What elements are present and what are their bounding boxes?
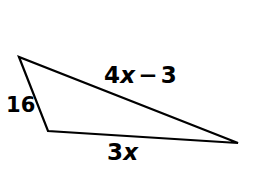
side-label-bottom: 3x (107, 141, 138, 164)
top-side-coefficient: 4 (104, 62, 120, 88)
bottom-side-variable: x (123, 139, 138, 165)
top-side-operator: − (135, 62, 160, 88)
side-label-top: 4x−3 (104, 64, 177, 87)
side-label-left: 16 (6, 95, 36, 116)
left-side-value: 16 (6, 93, 36, 117)
top-side-variable: x (120, 62, 135, 88)
triangle-figure: 16 4x−3 3x (0, 0, 257, 170)
bottom-side-coefficient: 3 (107, 139, 123, 165)
top-side-constant: 3 (161, 62, 177, 88)
